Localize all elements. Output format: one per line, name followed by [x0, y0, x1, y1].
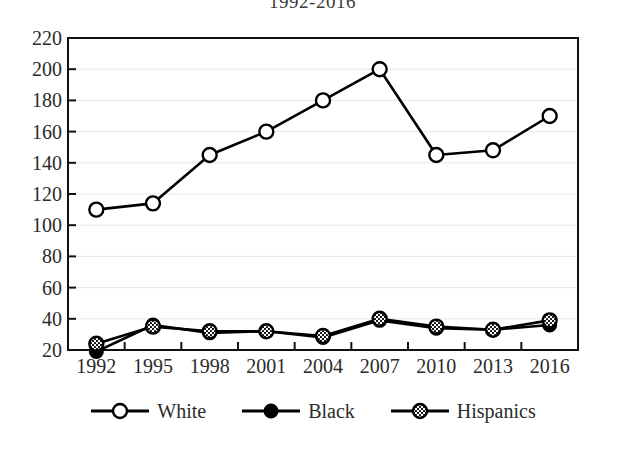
plot-area — [0, 0, 625, 457]
x-tick-label: 2007 — [360, 356, 400, 376]
legend-item-hispanics[interactable]: Hispanics — [389, 400, 536, 422]
marker-hatched-circle — [543, 313, 557, 327]
x-tick-label: 2004 — [303, 356, 343, 376]
marker-open-circle — [259, 125, 273, 139]
y-axis-ticks — [68, 38, 76, 350]
x-tick-label: 1992 — [76, 356, 116, 376]
x-tick-label: 2001 — [246, 356, 286, 376]
marker-hatched-circle — [413, 404, 427, 418]
marker-hatched-circle — [203, 324, 217, 338]
marker-open-circle — [203, 148, 217, 162]
series-lines — [96, 69, 549, 351]
x-tick-label: 1995 — [133, 356, 173, 376]
legend-marker-hatched-circle-icon — [389, 400, 451, 422]
marker-open-circle — [543, 109, 557, 123]
marker-hatched-circle — [429, 320, 443, 334]
marker-hatched-circle — [486, 323, 500, 337]
chart-figure: 1992-2016 20406080100120140160180200220 … — [0, 0, 625, 457]
series-markers — [89, 62, 556, 358]
x-axis-tick-labels: 199219951998200120042007201020132016 — [0, 356, 625, 386]
gridlines — [68, 38, 578, 319]
legend-item-black[interactable]: Black — [240, 400, 355, 422]
legend-label: White — [157, 401, 206, 421]
x-tick-label: 2010 — [416, 356, 456, 376]
x-tick-label: 1998 — [190, 356, 230, 376]
chart-legend: WhiteBlackHispanics — [0, 400, 625, 422]
series-line — [96, 69, 549, 209]
legend-label: Hispanics — [457, 401, 536, 421]
marker-open-circle — [316, 93, 330, 107]
legend-marker-filled-circle-icon — [240, 400, 302, 422]
marker-hatched-circle — [89, 337, 103, 351]
marker-open-circle — [113, 404, 127, 418]
legend-label: Black — [308, 401, 355, 421]
x-tick-label: 2016 — [530, 356, 570, 376]
legend-marker-open-circle-icon — [89, 400, 151, 422]
marker-hatched-circle — [259, 324, 273, 338]
marker-hatched-circle — [316, 329, 330, 343]
legend-item-white[interactable]: White — [89, 400, 206, 422]
marker-open-circle — [89, 203, 103, 217]
marker-hatched-circle — [146, 320, 160, 334]
marker-open-circle — [429, 148, 443, 162]
marker-open-circle — [373, 62, 387, 76]
marker-open-circle — [146, 196, 160, 210]
x-tick-label: 2013 — [473, 356, 513, 376]
marker-hatched-circle — [373, 312, 387, 326]
marker-open-circle — [486, 143, 500, 157]
marker-filled-circle — [265, 405, 278, 418]
